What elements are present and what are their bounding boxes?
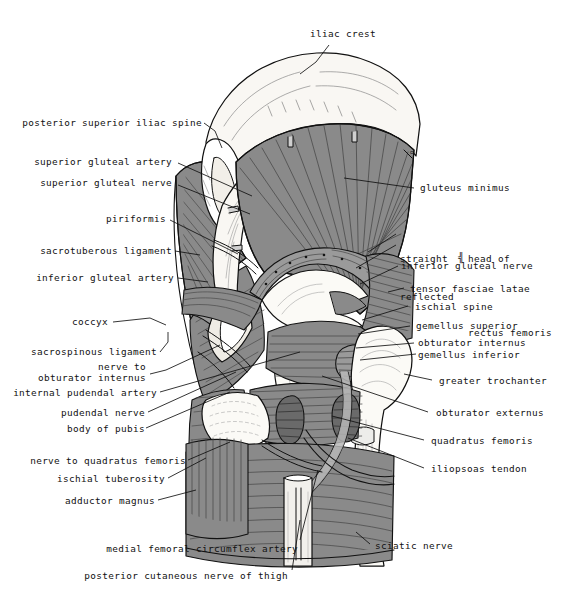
label-coccyx: coccyx xyxy=(10,316,108,328)
label-gemellus-inferior: gemellus inferior xyxy=(418,349,520,361)
figure-page: iliac crest posterior superior iliac spi… xyxy=(0,0,581,602)
label-adductor-magnus: adductor magnus xyxy=(10,495,155,507)
label-superior-gluteal-nerve: superior gluteal nerve xyxy=(10,177,172,189)
label-gemellus-superior: gemellus superior xyxy=(416,320,518,332)
label-medial-femoral-circumflex-artery: medial femoral circumflex artery xyxy=(40,543,298,555)
label-gluteus-minimus: gluteus minimus xyxy=(420,182,510,194)
label-inferior-gluteal-artery: inferior gluteal artery xyxy=(10,272,174,284)
label-pudendal-nerve: pudendal nerve xyxy=(10,407,145,419)
label-sacrotuberous-ligament: sacrotuberous ligament xyxy=(10,245,172,257)
label-nerve-to-quadratus-femoris: nerve to quadratus femoris xyxy=(10,455,186,467)
label-ischial-spine: ischial spine xyxy=(415,301,493,313)
label-greater-trochanter: greater trochanter xyxy=(439,375,547,387)
label-obturator-internus: obturator internus xyxy=(418,337,526,349)
label-sacrospinous-ligament: sacrospinous ligament xyxy=(10,346,157,358)
label-iliopsoas-tendon: iliopsoas tendon xyxy=(431,463,527,475)
label-nerve-to-obturator-internus-line1: nerve to xyxy=(10,361,146,373)
engraver-mark: ᴑ xyxy=(410,146,414,158)
label-posterior-cutaneous-nerve-of-thigh: posterior cutaneous nerve of thigh xyxy=(30,570,288,582)
label-body-of-pubis: body of pubis xyxy=(10,423,145,435)
label-ischial-tuberosity: ischial tuberosity xyxy=(10,473,165,485)
label-nerve-to-obturator-internus-line2: obturator internus xyxy=(10,372,146,384)
label-obturator-externus: obturator externus xyxy=(436,407,544,419)
label-tensor-fasciae-latae: tensor fasciae latae xyxy=(410,283,530,295)
label-sciatic-nerve: sciatic nerve xyxy=(375,540,453,552)
leader-coccyx xyxy=(113,318,166,325)
label-quadratus-femoris: quadratus femoris xyxy=(431,435,533,447)
label-superior-gluteal-artery: superior gluteal artery xyxy=(10,156,172,168)
leader-sacrospinous-ligament xyxy=(160,332,168,352)
label-posterior-superior-iliac-spine: posterior superior iliac spine xyxy=(10,117,202,129)
label-iliac-crest: iliac crest xyxy=(288,28,398,40)
label-piriformis: piriformis xyxy=(10,213,166,225)
label-inferior-gluteal-nerve: inferior gluteal nerve xyxy=(401,260,533,272)
label-internal-pudendal-artery: internal pudendal artery xyxy=(10,387,157,399)
